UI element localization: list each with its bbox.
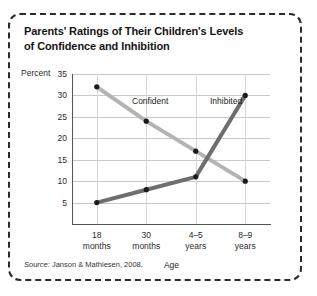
series-line-inhibited: [97, 95, 246, 202]
data-point: [94, 200, 99, 205]
series-label-confident: Confident: [132, 96, 168, 106]
data-point: [144, 119, 149, 124]
chart-title-line-2: of Confidence and Inhibition: [24, 39, 279, 54]
x-axis-tick-label: 8–9years: [215, 230, 275, 251]
y-axis-tick-label: 35: [58, 69, 67, 79]
y-axis-tick-label: 25: [58, 112, 67, 122]
data-point: [243, 179, 248, 184]
y-axis-tick-label: 10: [58, 176, 67, 186]
y-axis-tick-label: 5: [62, 198, 67, 208]
y-axis-tick-label: 20: [58, 133, 67, 143]
y-axis-title: Percent: [21, 68, 50, 78]
y-axis-tick-label: 15: [58, 155, 67, 165]
source-prefix: Source:: [24, 260, 50, 269]
series-label-inhibited: Inhibited: [210, 96, 242, 106]
data-point: [94, 84, 99, 89]
chart-title-line-1: Parents' Ratings of Their Children's Lev…: [24, 24, 279, 39]
data-point: [243, 93, 248, 98]
chart-title: Parents' Ratings of Their Children's Lev…: [24, 24, 279, 53]
chart-plot-area: Percent 5101520253035 Confident Inhibite…: [10, 63, 304, 238]
figure-card: Parents' Ratings of Their Children's Lev…: [8, 13, 302, 281]
x-axis-tick-line: years: [215, 241, 275, 252]
x-axis-tick-line: 8–9: [215, 230, 275, 241]
data-point: [193, 149, 198, 154]
data-point: [193, 174, 198, 179]
source-note: Source: Janson & Mathiesen, 2008.: [24, 260, 143, 269]
y-axis-tick-label: 30: [58, 90, 67, 100]
source-citation: Janson & Mathiesen, 2008.: [52, 260, 143, 269]
plot-canvas: 5101520253035 Confident Inhibited 18mont…: [72, 74, 270, 203]
data-point: [144, 187, 149, 192]
series-lines: [68, 70, 276, 230]
